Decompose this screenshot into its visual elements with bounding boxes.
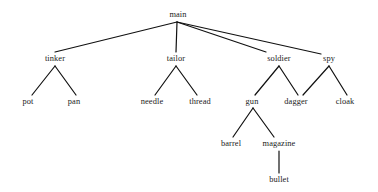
- tree-node-needle[interactable]: needle: [141, 98, 163, 106]
- tree-edge-main-to-tinker: [55, 22, 177, 52]
- tree-node-pan[interactable]: pan: [68, 98, 80, 106]
- tree-edge-main-to-spy: [177, 22, 321, 54]
- tree-edge-spy-to-dagger: [303, 66, 329, 95]
- tree-node-bullet[interactable]: bullet: [269, 176, 289, 184]
- tree-node-dagger[interactable]: dagger: [284, 98, 307, 106]
- tree-edge-soldier-to-gun: [255, 66, 279, 95]
- tree-edge-tailor-to-thread: [176, 66, 197, 95]
- tree-node-cloak[interactable]: cloak: [336, 98, 355, 106]
- tree-edge-tinker-to-pot: [32, 66, 55, 95]
- tree-edge-main-to-soldier: [177, 22, 266, 52]
- tree-node-tailor[interactable]: tailor: [167, 55, 185, 63]
- tree-edge-gun-to-magazine: [253, 108, 274, 137]
- tree-diagram-canvas: maintinkertailorsoldierspypotpanneedleth…: [0, 0, 378, 192]
- tree-node-main[interactable]: main: [169, 11, 186, 19]
- tree-edge-gun-to-barrel: [233, 108, 253, 137]
- tree-node-soldier[interactable]: soldier: [267, 55, 291, 63]
- tree-node-gun[interactable]: gun: [246, 98, 259, 106]
- tree-edge-spy-to-cloak: [329, 66, 347, 95]
- tree-edge-main-to-tailor: [176, 22, 177, 52]
- tree-edge-tailor-to-needle: [155, 66, 176, 95]
- tree-node-spy[interactable]: spy: [323, 55, 335, 63]
- tree-node-tinker[interactable]: tinker: [45, 55, 65, 63]
- tree-node-thread[interactable]: thread: [189, 98, 211, 106]
- tree-node-magazine[interactable]: magazine: [263, 140, 296, 148]
- tree-node-pot[interactable]: pot: [22, 98, 33, 106]
- tree-node-barrel[interactable]: barrel: [221, 140, 241, 148]
- tree-edge-tinker-to-pan: [55, 66, 76, 95]
- tree-edge-soldier-to-dagger: [279, 66, 298, 95]
